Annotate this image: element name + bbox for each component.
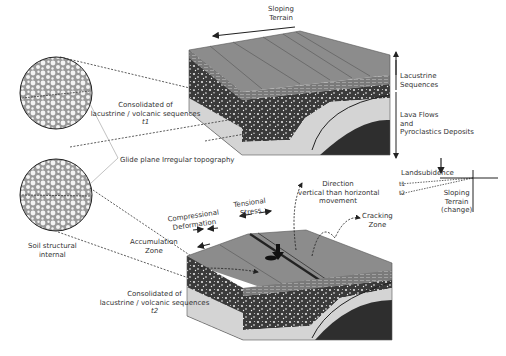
accumulation-line2: Zone xyxy=(130,247,178,256)
lacustrine-line2: Sequences xyxy=(400,81,438,90)
label-accumulation: Accumulation Zone xyxy=(130,238,178,255)
label-landsubsidence: Landsubidence xyxy=(401,169,454,178)
lava-line2: and xyxy=(400,120,474,129)
accumulation-line1: Accumulation xyxy=(130,238,178,247)
sloping-change-line3: (change) xyxy=(441,206,472,215)
label-consolidated-t1: Consolidated of lacustrine / volcanic se… xyxy=(88,101,203,127)
consolidated-t2-line3: t2 xyxy=(97,307,212,316)
label-glide-plane: Glide plane xyxy=(120,156,160,165)
label-lacustrine: Lacustrine Sequences xyxy=(400,72,438,89)
soil-circle-t1 xyxy=(20,57,92,129)
direction-line1: Direction xyxy=(298,180,378,189)
label-sloping-change: Sloping Terrain (change) xyxy=(441,189,472,215)
label-lava: Lava Flows and Pyroclastics Deposits xyxy=(400,111,474,137)
direction-line3: movement xyxy=(298,197,378,206)
label-irregular-topography: Irregular topography xyxy=(162,156,234,165)
top-block xyxy=(189,31,390,155)
sloping-change-line2: Terrain xyxy=(441,198,472,207)
lava-line3: Pyroclastics Deposits xyxy=(400,128,474,137)
lava-line1: Lava Flows xyxy=(400,111,474,120)
label-consolidated-t2: Consolidated of lacustrine / volcanic se… xyxy=(97,290,212,316)
cracking-line1: Cracking xyxy=(362,212,393,221)
consolidated-t1-line1: Consolidated of xyxy=(88,101,203,110)
consolidated-t1-line3: t1 xyxy=(88,118,203,127)
direction-line2: vertical than horizontal xyxy=(298,189,378,198)
label-sloping-terrain: Sloping Terrain xyxy=(268,5,294,22)
sloping-line1: Sloping xyxy=(268,5,294,14)
label-t2: t2 xyxy=(399,189,405,198)
soil-line2: internal xyxy=(28,251,77,260)
label-direction: Direction vertical than horizontal movem… xyxy=(298,180,378,206)
bottom-block xyxy=(187,230,392,340)
label-t1: t1 xyxy=(399,180,405,189)
sloping-change-line1: Sloping xyxy=(441,189,472,198)
label-soil-structural: Soil structural internal xyxy=(28,242,77,259)
lacustrine-line1: Lacustrine xyxy=(400,72,438,81)
consolidated-t2-line1: Consolidated of xyxy=(97,290,212,299)
diagram-canvas xyxy=(0,0,506,356)
soil-line1: Soil structural xyxy=(28,242,77,251)
label-cracking-zone: Cracking Zone xyxy=(362,212,393,229)
sloping-line2: Terrain xyxy=(268,14,294,23)
consolidated-t2-line2: lacustrine / volcanic sequences xyxy=(97,299,212,308)
cracking-line2: Zone xyxy=(362,221,393,230)
consolidated-t1-line2: lacustrine / volcanic sequences xyxy=(88,110,203,119)
